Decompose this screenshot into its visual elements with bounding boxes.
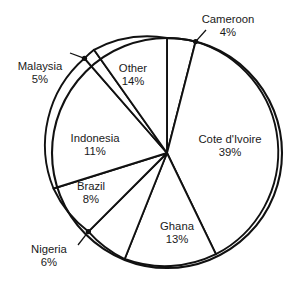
pie-label-nigeria: Nigeria 6% — [16, 243, 82, 268]
pie-chart: Cameroon 4% Cote d'Ivoire 39% Ghana 13% … — [0, 0, 291, 288]
pie-label-ghana: Ghana 13% — [142, 220, 212, 245]
pie-label-malaysia: Malaysia 5% — [5, 60, 75, 85]
pie-label-nigeria-name: Nigeria — [16, 243, 82, 256]
pie-label-cameroon-name: Cameroon — [183, 13, 273, 26]
pie-label-indonesia-value: 11% — [55, 145, 135, 158]
pie-label-other: Other 14% — [100, 62, 166, 87]
pie-label-cote-divoire: Cote d'Ivoire 39% — [180, 133, 280, 158]
pie-label-malaysia-value: 5% — [5, 73, 75, 86]
pie-label-brazil-value: 8% — [58, 193, 124, 206]
pie-label-ghana-value: 13% — [142, 233, 212, 246]
pie-label-ghana-name: Ghana — [142, 220, 212, 233]
pie-label-malaysia-name: Malaysia — [5, 60, 75, 73]
pie-label-brazil: Brazil 8% — [58, 180, 124, 205]
pie-label-cote-divoire-value: 39% — [180, 146, 280, 159]
pie-label-other-name: Other — [100, 62, 166, 75]
leader-line-malaysia — [70, 53, 85, 58]
pie-label-indonesia-name: Indonesia — [55, 132, 135, 145]
pie-label-cote-divoire-name: Cote d'Ivoire — [180, 133, 280, 146]
pie-label-brazil-name: Brazil — [58, 180, 124, 193]
pie-label-nigeria-value: 6% — [16, 256, 82, 269]
pie-label-indonesia: Indonesia 11% — [55, 132, 135, 157]
pie-label-other-value: 14% — [100, 75, 166, 88]
pie-label-cameroon: Cameroon 4% — [183, 13, 273, 38]
pie-label-cameroon-value: 4% — [183, 26, 273, 39]
